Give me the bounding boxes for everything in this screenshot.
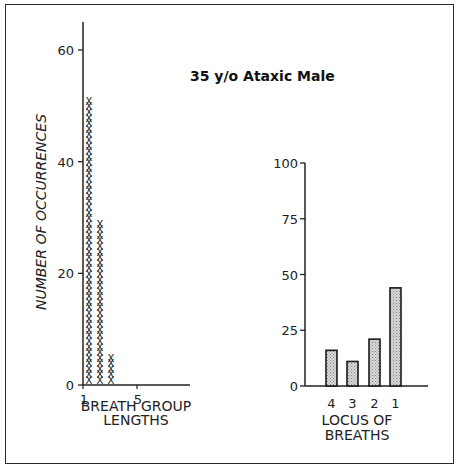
y-tick-label: 40 (57, 155, 74, 170)
tally-x-mark: X (108, 353, 115, 364)
bars (326, 288, 401, 386)
chart-title: 35 y/o Ataxic Male (190, 68, 335, 84)
x-tick-label: 3 (348, 396, 356, 411)
y-tick-label: 0 (290, 379, 298, 394)
y-tick-label: 25 (281, 323, 298, 338)
y-tick-label: 0 (66, 378, 74, 393)
right-x-ticks: 4321 (327, 396, 399, 411)
bar-locus-2 (369, 339, 380, 386)
bar-locus-3 (347, 361, 358, 386)
tally-x-mark: X (86, 96, 93, 107)
right-y-ticks: 0255075100 (273, 156, 305, 394)
right-chart: 0255075100 4321 LOCUS OF BREATHS (273, 156, 428, 443)
bar-locus-1 (390, 288, 401, 386)
y-tick-label: 20 (57, 266, 74, 281)
x-tick-label: 2 (370, 396, 378, 411)
bar-locus-4 (326, 350, 337, 386)
left-chart: 0204060 15 XXXXXXXXXXXXXXXXXXXXXXXXXXXXX… (33, 22, 191, 428)
y-tick-label: 75 (281, 212, 298, 227)
x-tick-label: 4 (327, 396, 335, 411)
left-x-axis-title-line2: LENGTHS (103, 412, 169, 428)
tally-marks: XXXXXXXXXXXXXXXXXXXXXXXXXXXXXXXXXXXXXXXX… (86, 96, 115, 386)
x-tick-label: 1 (391, 396, 399, 411)
tally-x-mark: X (97, 219, 104, 230)
left-y-axis-title: NUMBER OF OCCURRENCES (33, 114, 49, 310)
right-x-axis-title-line2: BREATHS (325, 427, 390, 443)
y-tick-label: 100 (273, 156, 298, 171)
right-x-axis-title-line1: LOCUS OF (322, 412, 393, 428)
y-tick-label: 50 (281, 268, 298, 283)
y-tick-label: 60 (57, 43, 74, 58)
left-y-ticks: 0204060 (57, 43, 83, 393)
